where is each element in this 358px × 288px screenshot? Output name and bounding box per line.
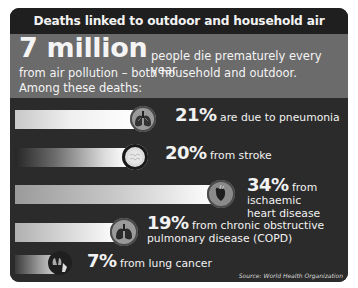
pct-pneumonia: 21% bbox=[175, 104, 217, 125]
text-pneumonia: are due to pneumonia bbox=[220, 111, 340, 124]
brain-icon bbox=[122, 144, 148, 170]
source-credit: Source: World Health Organization bbox=[239, 272, 343, 279]
headline-number: 7 million bbox=[19, 32, 147, 63]
text-stroke: from stroke bbox=[210, 149, 272, 162]
label-stroke: 20% from stroke bbox=[165, 146, 272, 162]
bar-stroke bbox=[15, 148, 127, 167]
heart-icon bbox=[207, 180, 235, 208]
pct-stroke: 20% bbox=[165, 142, 207, 163]
chart-body: 21% are due to pneumonia 20% from stroke… bbox=[10, 98, 348, 282]
bar-pneumonia bbox=[15, 110, 139, 129]
intro-section: 7 million people die prematurely every y… bbox=[10, 34, 348, 98]
pct-lung-cancer: 7% bbox=[87, 250, 117, 271]
text-copd: from chronic obstructive bbox=[192, 219, 324, 232]
lung-cancer-icon bbox=[48, 251, 72, 275]
bar-ischaemic-heart bbox=[15, 185, 215, 204]
label-pneumonia: 21% are due to pneumonia bbox=[175, 108, 340, 124]
intro-line-2: from air pollution – both household and … bbox=[19, 66, 297, 80]
text-copd-2: pulmonary disease (COPD) bbox=[147, 232, 292, 245]
label-lung-cancer: 7% from lung cancer bbox=[87, 254, 212, 270]
label-copd: 19% from chronic obstructive pulmonary d… bbox=[147, 216, 324, 245]
label-ischaemic-heart: 34% from ischaemic heart disease bbox=[247, 178, 348, 220]
lungs-icon bbox=[110, 218, 138, 246]
lungs-icon bbox=[130, 106, 156, 132]
infographic-card: Deaths linked to outdoor and household a… bbox=[10, 8, 348, 282]
intro-line-3: Among these deaths: bbox=[19, 81, 142, 95]
pct-ischaemic-heart: 34% bbox=[247, 174, 289, 195]
header-title: Deaths linked to outdoor and household a… bbox=[10, 8, 348, 34]
pct-copd: 19% bbox=[147, 212, 189, 233]
bar-copd bbox=[15, 223, 119, 242]
text-lung-cancer: from lung cancer bbox=[120, 257, 212, 270]
